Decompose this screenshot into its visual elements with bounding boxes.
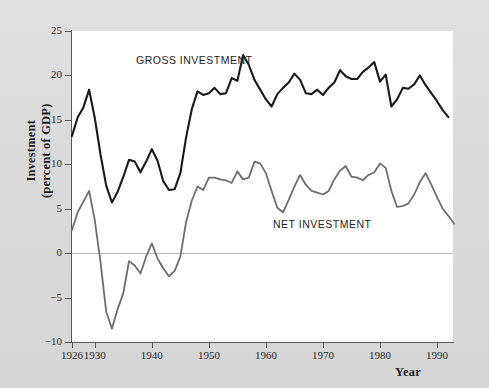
gross-investment-label: GROSS INVESTMENT xyxy=(136,54,253,66)
y-axis-title-line1: Investment xyxy=(24,120,38,182)
y-axis-title-line2: (percent of GDP) xyxy=(39,103,53,198)
x-axis-title: Year xyxy=(395,365,421,380)
net-investment-label: NET INVESTMENT xyxy=(273,218,371,230)
investment-chart-figure: 2520151050−5−10 192619301940195019601970… xyxy=(0,0,489,388)
y-axis-title: Investment (percent of GDP) xyxy=(24,66,54,236)
gross-investment-line xyxy=(72,55,448,203)
net-investment-line xyxy=(72,162,454,329)
plot-wrapper: 2520151050−5−10 192619301940195019601970… xyxy=(0,0,489,388)
